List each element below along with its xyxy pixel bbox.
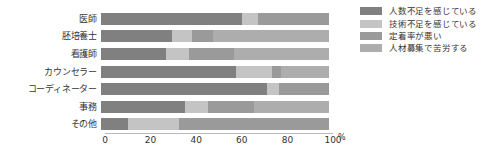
bar-segment: [185, 101, 208, 113]
bar-segment: [101, 83, 267, 95]
bar-segment: [242, 13, 258, 25]
legend-item: 技術不足を感じている: [360, 17, 492, 29]
bar-segment: [101, 30, 172, 42]
x-tick-label: 0: [102, 134, 108, 146]
legend-item: 人材募集で苦労する: [360, 42, 492, 54]
bar-segment: [267, 83, 278, 95]
stacked-bar: [101, 66, 329, 78]
bar-row: 胚培養士: [0, 28, 352, 46]
category-label: 看護師: [0, 49, 101, 59]
bar-segment: [101, 66, 236, 78]
bar-segment: [281, 66, 329, 78]
bar-segment: [258, 13, 329, 25]
legend-item: 人数不足を感じている: [360, 5, 492, 17]
bar-segment: [279, 83, 329, 95]
x-tick-label: 60: [236, 134, 247, 146]
bar-segment: [101, 101, 185, 113]
stacked-bar: [101, 83, 329, 95]
legend-item: 定着率が悪い: [360, 30, 492, 42]
bar-segment: [101, 118, 128, 130]
legend-swatch: [360, 7, 382, 15]
legend-label: 定着率が悪い: [389, 31, 442, 41]
bar-row: コーディネーター: [0, 80, 352, 98]
legend: 人数不足を感じている技術不足を感じている定着率が悪い人材募集で苦労する: [360, 5, 492, 55]
stacked-bar: [101, 118, 329, 130]
stacked-bar: [101, 101, 329, 113]
bar-segment: [166, 48, 189, 60]
bar-row: 看護師: [0, 45, 352, 63]
legend-swatch: [360, 32, 382, 40]
bar-rows: 医師胚培養士看護師カウンセラーコーディネーター事務その他: [0, 10, 352, 133]
x-axis-unit-label: %: [338, 133, 346, 142]
category-label: 胚培養士: [0, 31, 101, 41]
bar-segment: [189, 48, 235, 60]
stacked-bar: [101, 30, 329, 42]
stacked-bar: [101, 48, 329, 60]
bar-row: その他: [0, 116, 352, 134]
bar-row: 医師: [0, 10, 352, 28]
category-label: その他: [0, 119, 101, 129]
bar-segment: [213, 30, 329, 42]
category-label: コーディネーター: [0, 84, 101, 94]
category-label: 医師: [0, 14, 101, 24]
bar-segment: [208, 101, 254, 113]
bar-row: カウンセラー: [0, 63, 352, 81]
x-tick-label: 20: [145, 134, 156, 146]
category-label: カウンセラー: [0, 67, 101, 77]
x-tick-label: 40: [190, 134, 201, 146]
bar-segment: [272, 66, 281, 78]
bar-segment: [128, 118, 178, 130]
bar-segment: [172, 30, 193, 42]
legend-swatch: [360, 44, 382, 52]
legend-label: 技術不足を感じている: [389, 19, 477, 29]
plot-area: 医師胚培養士看護師カウンセラーコーディネーター事務その他 02040608010…: [0, 0, 352, 162]
bar-segment: [236, 66, 272, 78]
bar-segment: [101, 13, 242, 25]
x-axis-ticks: 020406080100: [105, 134, 333, 148]
bar-row: 事務: [0, 98, 352, 116]
category-label: 事務: [0, 102, 101, 112]
bar-segment: [192, 30, 213, 42]
legend-label: 人数不足を感じている: [389, 6, 477, 16]
bar-segment: [101, 48, 166, 60]
legend-label: 人材募集で苦労する: [389, 43, 468, 53]
stacked-bar-chart: 医師胚培養士看護師カウンセラーコーディネーター事務その他 02040608010…: [0, 0, 492, 162]
x-tick-label: 80: [282, 134, 293, 146]
bar-segment: [179, 118, 329, 130]
stacked-bar: [101, 13, 329, 25]
legend-swatch: [360, 20, 382, 28]
bar-segment: [234, 48, 329, 60]
bar-segment: [254, 101, 329, 113]
